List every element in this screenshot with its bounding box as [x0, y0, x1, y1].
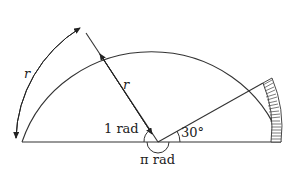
- arc-length-label: r: [24, 66, 31, 81]
- pi-rad-label: π rad: [140, 152, 175, 167]
- arc-length-arrow: [16, 28, 80, 138]
- hatched-rim-30deg: [263, 78, 282, 142]
- thirty-degree-label: 30°: [181, 125, 204, 140]
- semicircle: [22, 52, 281, 142]
- one-rad-label: 1 rad: [104, 121, 139, 136]
- radian-diagram: r r 1 rad 30° π rad: [0, 0, 303, 173]
- thirty-degree-angle-arc: [177, 131, 180, 142]
- radius-label: r: [123, 77, 130, 92]
- one-rad-angle-arc: [144, 130, 150, 142]
- radius-30deg-line: [158, 83, 263, 142]
